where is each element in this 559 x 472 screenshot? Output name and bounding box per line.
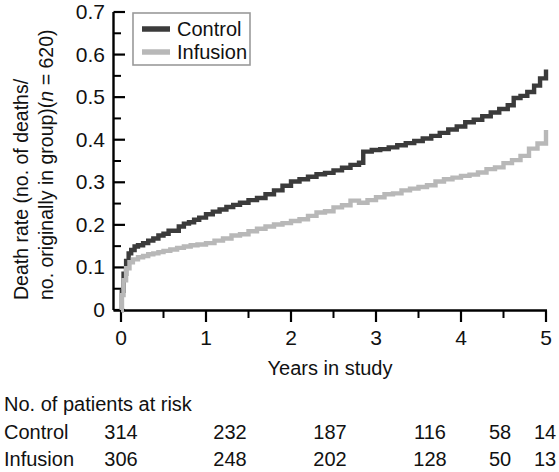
y-axis-label-line2: no. originally in group)(n = 620) (35, 30, 57, 300)
mortality-chart-figure: Death rate (no. of deaths/ no. originall… (0, 0, 559, 472)
legend-label-control: Control (177, 18, 241, 40)
legend-label-infusion: Infusion (177, 41, 247, 63)
risk-row-value: 306 (104, 448, 137, 470)
risk-row-value: 14 (534, 421, 556, 443)
x-tick-label: 4 (455, 326, 467, 349)
risk-row-value: 248 (213, 448, 246, 470)
y-tick-label: 0.6 (76, 43, 105, 66)
risk-table-header: No. of patients at risk (4, 393, 193, 415)
y-tick-label: 0.1 (76, 255, 105, 278)
risk-table-rows: Control3142321871165814Infusion306248202… (4, 421, 556, 470)
y-tick-label: 0.3 (76, 170, 105, 193)
series-lines (121, 69, 546, 310)
risk-row-value: 58 (489, 421, 511, 443)
x-tick-label: 2 (285, 326, 297, 349)
x-axis-ticks (121, 311, 546, 323)
y-tick-label: 0.4 (76, 128, 106, 151)
risk-table: No. of patients at risk Control314232187… (4, 393, 556, 470)
risk-row-value: 202 (313, 448, 346, 470)
y-axis-label-line2-prefix: no. originally in group)( (35, 101, 57, 300)
x-tick-label: 5 (540, 326, 552, 349)
risk-row-value: 232 (213, 421, 246, 443)
legend: Control Infusion (133, 13, 250, 65)
y-axis-label-n-italic: n (35, 91, 57, 102)
risk-row-value: 116 (414, 421, 446, 443)
risk-row-value: 50 (489, 448, 511, 470)
x-tick-label: 1 (200, 326, 212, 349)
x-axis-title: Years in study (268, 357, 393, 379)
risk-row-value: 314 (104, 421, 137, 443)
x-tick-label: 3 (370, 326, 382, 349)
risk-row-value: 13 (534, 448, 556, 470)
y-axis-label: Death rate (no. of deaths/ no. originall… (10, 30, 57, 300)
y-axis-ticks (114, 12, 126, 310)
y-tick-label: 0.7 (76, 0, 105, 23)
risk-row-value: 128 (413, 448, 446, 470)
y-tick-label: 0.5 (76, 85, 105, 108)
x-axis-tick-labels: 012345 (115, 326, 552, 349)
x-tick-label: 0 (115, 326, 127, 349)
y-tick-label: 0 (93, 298, 105, 321)
series-line-infusion (121, 130, 546, 310)
y-axis-tick-labels: 00.10.20.30.40.50.60.7 (76, 0, 106, 321)
y-tick-label: 0.2 (76, 213, 105, 236)
risk-row-label: Infusion (4, 448, 74, 470)
y-axis-label-line1: Death rate (no. of deaths/ (10, 78, 32, 300)
series-line-control (121, 69, 546, 310)
y-axis-label-line2-suffix: = 620) (35, 30, 57, 91)
risk-row-label: Control (4, 421, 68, 443)
risk-row-value: 187 (313, 421, 346, 443)
